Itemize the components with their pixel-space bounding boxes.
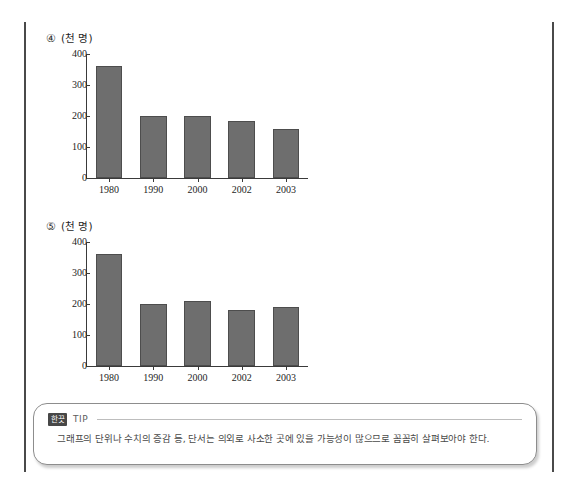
chart-5-xlabels: 19801990200020022003 [87,372,308,383]
chart-4-ytick-100: 100 [44,141,92,153]
chart-5-bars [87,242,308,366]
bar-2003 [273,307,300,366]
xtick-2002 [220,366,264,371]
bar-slot [175,242,219,366]
xtick-1990 [131,366,175,371]
chart-4-header: ④ (천 명) [46,30,324,46]
bar-slot [220,242,264,366]
chart-5-header: ⑤ (천 명) [46,218,324,234]
bar-2002 [228,310,255,366]
page-right-rule [552,22,554,472]
tip-divider [97,419,522,420]
bar-slot [131,242,175,366]
tip-badge: 한끗 [48,413,67,426]
tip-header: 한끗 TIP [48,412,522,426]
bar-slot [175,54,219,178]
xlabel-2000: 2000 [175,372,219,383]
xlabel-2003: 2003 [264,184,308,195]
bar-2000 [184,301,211,366]
xtick-1980 [87,178,131,183]
chart-5-unit-label: (천 명) [61,218,93,233]
tip-panel: 한끗 TIP 그래프의 단위나 수치의 증감 등, 단서는 의외로 사소한 곳에… [33,403,537,465]
xlabel-1980: 1980 [87,184,131,195]
chart-4-ytick-200: 200 [44,110,92,122]
xlabel-2002: 2002 [220,184,264,195]
chart-4-xlabels: 19801990200020022003 [87,184,308,195]
chart-5-ytick-300: 300 [44,267,92,279]
xtick-2003 [264,178,308,183]
chart-5-ytick-400: 400 [44,236,92,248]
xtick-2002 [220,178,264,183]
chart-4-marker: ④ [46,33,56,44]
bar-1980 [96,66,123,178]
tip-label: TIP [73,414,88,424]
tip-body-text: 그래프의 단위나 수치의 증감 등, 단서는 의외로 사소한 곳에 있을 가능성… [57,432,518,446]
xtick-1990 [131,178,175,183]
bar-2002 [228,121,255,178]
xtick-2003 [264,366,308,371]
bar-1980 [96,254,123,366]
chart-4-bars [87,54,308,178]
bar-slot [87,242,131,366]
bar-slot [131,54,175,178]
chart-5-ytick-0: 0 [44,360,92,372]
xlabel-2002: 2002 [220,372,264,383]
bar-slot [220,54,264,178]
chart-5-ytick-200: 200 [44,298,92,310]
xlabel-2003: 2003 [264,372,308,383]
chart-4-unit-label: (천 명) [61,30,93,45]
xtick-1980 [87,366,131,371]
chart-5-ytick-100: 100 [44,329,92,341]
xlabel-1990: 1990 [131,184,175,195]
bar-slot [264,54,308,178]
chart-block-5: ⑤ (천 명) 0100200300400 198019902000200220… [44,218,324,386]
page-left-rule [24,22,26,472]
chart-block-4: ④ (천 명) 0100200300400 198019902000200220… [44,30,324,198]
bar-slot [264,242,308,366]
xlabel-2000: 2000 [175,184,219,195]
bar-1990 [140,116,167,178]
bar-2003 [273,129,300,178]
xtick-2000 [175,366,219,371]
chart-4-xticks [87,178,308,183]
xlabel-1990: 1990 [131,372,175,383]
chart-4-ytick-300: 300 [44,79,92,91]
chart-4-ytick-400: 400 [44,48,92,60]
page-canvas: ④ (천 명) 0100200300400 198019902000200220… [0,0,578,482]
xlabel-1980: 1980 [87,372,131,383]
xtick-2000 [175,178,219,183]
chart-5-plot: 0100200300400 19801990200020022003 [44,236,324,386]
chart-5-marker: ⑤ [46,221,56,232]
chart-4-plot: 0100200300400 19801990200020022003 [44,48,324,198]
bar-1990 [140,304,167,366]
chart-4-ytick-0: 0 [44,172,92,184]
bar-2000 [184,116,211,178]
bar-slot [87,54,131,178]
chart-5-xticks [87,366,308,371]
